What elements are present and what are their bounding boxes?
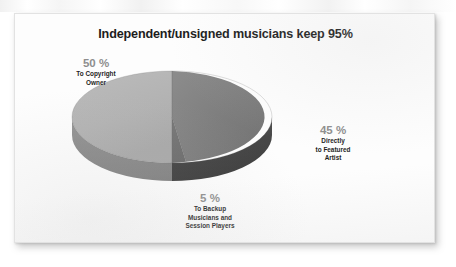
- callout-backup-percent: 5 %: [155, 192, 265, 205]
- callout-backup-musicians: 5 % To Backup Musicians and Session Play…: [155, 192, 265, 231]
- page-root: Independent/unsigned musicians keep 95%: [0, 0, 456, 267]
- callout-featured-artist: 45 % Directly to Featured Artist: [291, 124, 375, 163]
- callout-backup-line2: Musicians and: [155, 214, 265, 223]
- callout-backup-line1: To Backup: [155, 205, 265, 214]
- callout-backup-line3: Session Players: [155, 222, 265, 231]
- chart-title: Independent/unsigned musicians keep 95%: [15, 27, 435, 41]
- callout-artist-percent: 45 %: [291, 124, 375, 137]
- chart-card: Independent/unsigned musicians keep 95%: [14, 13, 435, 243]
- callout-artist-line3: Artist: [291, 154, 375, 163]
- callout-copyright-percent: 50 %: [48, 57, 144, 70]
- callout-artist-line2: to Featured: [291, 146, 375, 155]
- callout-copyright-line2: Owner: [48, 79, 144, 88]
- callout-copyright-owner: 50 % To Copyright Owner: [48, 57, 144, 87]
- callout-copyright-line1: To Copyright: [48, 70, 144, 79]
- callout-artist-line1: Directly: [291, 137, 375, 146]
- scan-noise-band: [0, 0, 456, 12]
